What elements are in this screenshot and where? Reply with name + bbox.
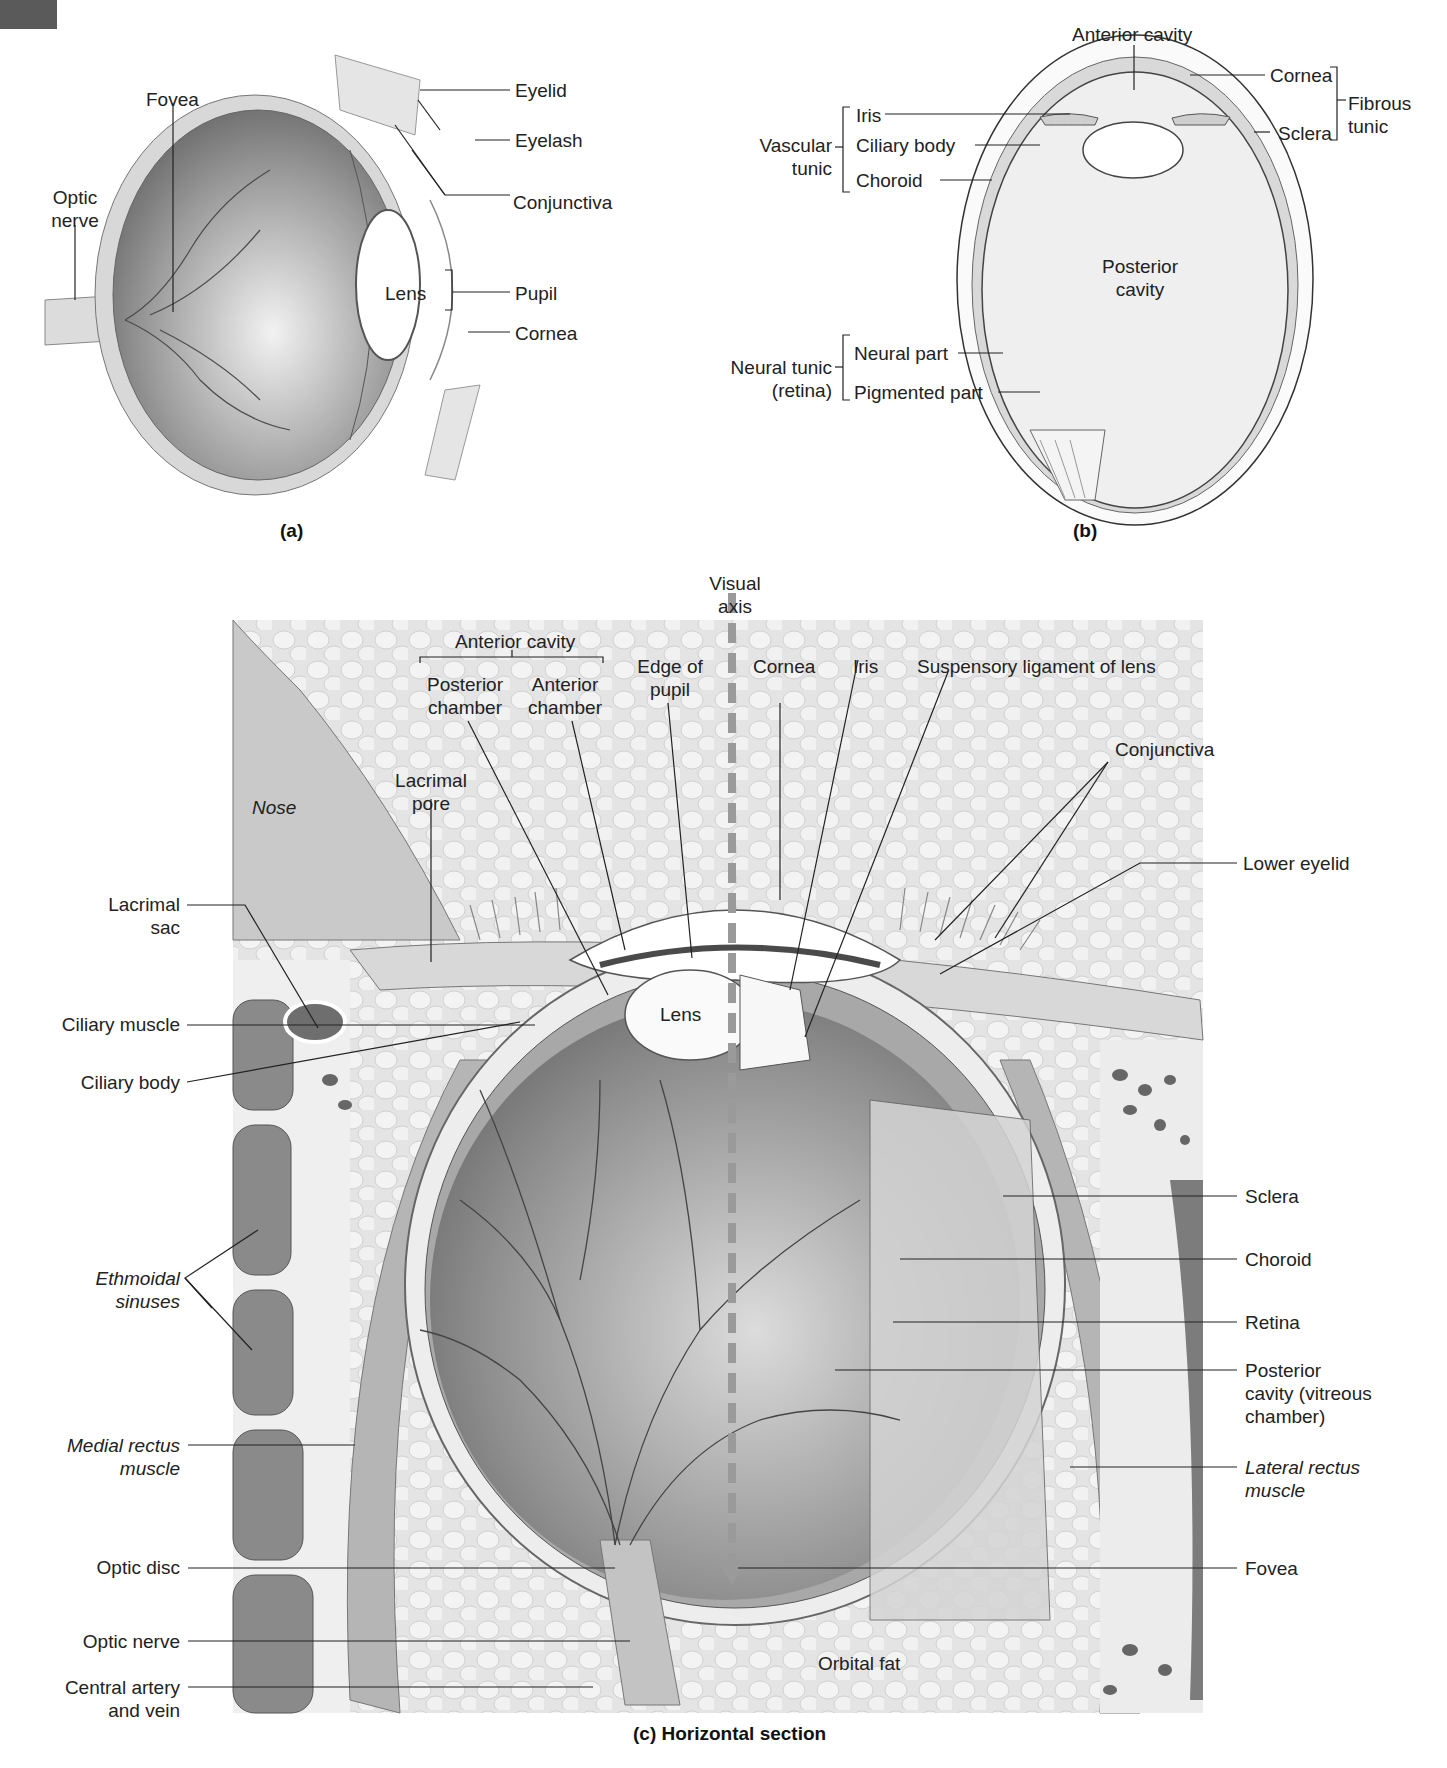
caption-a: (a) [280,520,303,542]
label-c-edge-of-pupil: Edge of pupil [630,655,710,701]
label-b-neural-tunic: Neural tunic (retina) [700,356,832,402]
caption-b: (b) [1073,520,1097,542]
label-c-anterior-cavity: Anterior cavity [455,630,575,653]
label-c-anterior-chamber: Anterior chamber [515,673,615,719]
label-a-fovea: Fovea [146,88,199,111]
label-c-ciliary-muscle: Ciliary muscle [20,1013,180,1036]
label-a-conjunctiva: Conjunctiva [513,191,612,214]
label-a-lens: Lens [385,282,426,305]
label-c-lateral-rectus: Lateral rectus muscle [1245,1456,1360,1502]
label-c-orbital-fat: Orbital fat [818,1652,900,1675]
label-c-fovea: Fovea [1245,1557,1298,1580]
label-c-lacrimal-sac: Lacrimal sac [80,893,180,939]
label-a-optic-nerve: Optic nerve [45,186,105,232]
panel-a-lateral-view [45,55,480,495]
label-a-eyelid: Eyelid [515,79,567,102]
eye-anatomy-illustration [0,0,1447,1768]
label-c-central-artery: Central artery and vein [20,1676,180,1722]
label-b-vascular-tunic: Vascular tunic [730,134,832,180]
label-c-retina: Retina [1245,1311,1300,1334]
label-b-choroid: Choroid [856,169,923,192]
label-b-fibrous-tunic: Fibrous tunic [1348,92,1411,138]
label-c-cornea: Cornea [753,655,815,678]
label-c-choroid: Choroid [1245,1248,1312,1271]
label-b-pigmented-part: Pigmented part [854,381,983,404]
label-c-lacrimal-pore: Lacrimal pore [385,769,477,815]
label-c-ciliary-body: Ciliary body [20,1071,180,1094]
label-b-anterior-cavity: Anterior cavity [1072,23,1192,46]
label-b-sclera: Sclera [1278,122,1332,145]
label-b-posterior-cavity: Posterior cavity [1090,255,1190,301]
label-c-nose: Nose [252,796,296,819]
label-c-sclera: Sclera [1245,1185,1299,1208]
label-c-optic-disc: Optic disc [20,1556,180,1579]
label-c-conjunctiva: Conjunctiva [1115,738,1214,761]
label-c-posterior-chamber: Posterior chamber [415,673,515,719]
caption-c: (c) Horizontal section [633,1723,826,1745]
label-c-lower-eyelid: Lower eyelid [1243,852,1350,875]
label-c-optic-nerve: Optic nerve [20,1630,180,1653]
label-a-pupil: Pupil [515,282,557,305]
label-c-visual-axis: Visual axis [700,572,770,618]
label-c-posterior-cavity: Posterior cavity (vitreous chamber) [1245,1359,1372,1428]
label-c-lens: Lens [660,1003,701,1026]
label-a-cornea: Cornea [515,322,577,345]
label-c-ethmoidal-sinuses: Ethmoidal sinuses [40,1267,180,1313]
label-b-iris: Iris [856,104,881,127]
label-a-eyelash: Eyelash [515,129,583,152]
label-c-iris: Iris [853,655,878,678]
panel-c-horizontal-section [233,593,1203,1713]
label-b-cornea: Cornea [1270,64,1332,87]
label-c-suspensory-ligament: Suspensory ligament of lens [917,655,1156,678]
label-c-medial-rectus: Medial rectus muscle [30,1434,180,1480]
label-b-ciliary-body: Ciliary body [856,134,955,157]
label-b-neural-part: Neural part [854,342,948,365]
